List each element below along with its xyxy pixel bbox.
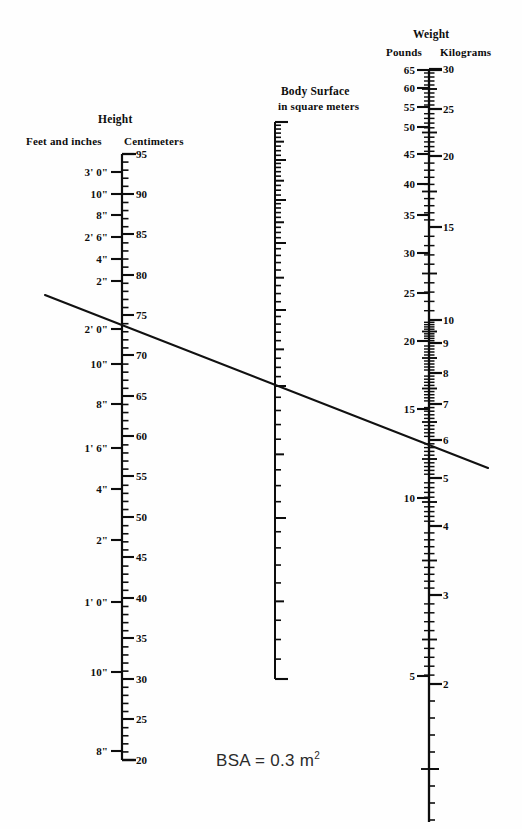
weight-scale-title: Weight: [413, 29, 449, 41]
height-cm-labels-item: 45: [136, 552, 147, 563]
height-ft-labels-item: 4": [96, 254, 108, 265]
height-cm-labels-item: 70: [136, 350, 147, 361]
height-ft-labels-item: 4": [96, 484, 108, 495]
weight-lb-labels-item: 15: [404, 404, 415, 415]
height-cm-labels-item: 55: [136, 471, 147, 482]
height-cm-labels-item: 20: [136, 755, 147, 766]
weight-lb-labels-item: 5: [409, 671, 415, 682]
height-cm-labels-item: 75: [136, 310, 147, 321]
weight-lb-labels-item: 60: [404, 83, 415, 94]
weight-kg-labels-item: 7: [443, 399, 449, 410]
height-cm-labels-item: 35: [136, 633, 147, 644]
weight-kg-labels-item: 8: [443, 368, 449, 379]
height-feet-inches-header: Feet and inches: [26, 136, 102, 147]
weight-lb-labels-item: 50: [404, 122, 415, 133]
height-ft-labels-item: 8": [96, 210, 108, 221]
bsa-result-annotation: BSA = 0.3 m2: [216, 750, 320, 771]
height-ft-labels-item: 3' 0": [85, 167, 108, 178]
height-ft-labels-item: 10": [91, 189, 108, 200]
height-cm-labels-item: 95: [136, 149, 147, 160]
weight-kg-labels-item: 30: [443, 64, 454, 75]
weight-lb-labels-item: 55: [404, 102, 415, 113]
nomogram-canvas: [0, 0, 522, 829]
height-ft-labels-item: 2' 0": [85, 324, 108, 335]
ticks-group: [111, 69, 442, 820]
weight-lb-labels-item: 30: [404, 248, 415, 259]
height-cm-labels-item: 30: [136, 674, 147, 685]
height-cm-labels-item: 85: [136, 229, 147, 240]
bsa-scale-title-line1: Body Surface: [281, 86, 350, 98]
weight-kg-labels-item: 20: [443, 151, 454, 162]
weight-kg-labels-item: 10: [443, 315, 454, 326]
weight-kg-labels-item: 6: [443, 435, 449, 446]
bsa-result-exponent: 2: [314, 750, 320, 761]
height-ft-labels-item: 2": [96, 276, 108, 287]
weight-lb-labels-item: 40: [404, 179, 415, 190]
height-ft-labels-item: 8": [96, 399, 108, 410]
weight-lb-labels-item: 45: [404, 149, 415, 160]
weight-lb-labels-item: 65: [404, 65, 415, 76]
weight-kilograms-header: Kilograms: [440, 47, 491, 58]
height-ft-labels-item: 2' 6": [85, 232, 108, 243]
bsa-result-text: BSA = 0.3 m: [216, 751, 314, 770]
weight-kg-labels-item: 5: [443, 473, 449, 484]
weight-kg-labels-item: 4: [443, 521, 449, 532]
weight-kg-labels-item: 2: [443, 679, 449, 690]
weight-kg-labels-item: 9: [443, 338, 449, 349]
bsa-scale-title-line2: in square meters: [278, 101, 359, 112]
height-cm-labels-item: 40: [136, 593, 147, 604]
bsa-reference-line[interactable]: [45, 295, 488, 468]
height-cm-labels-item: 80: [136, 270, 147, 281]
height-cm-labels-item: 25: [136, 714, 147, 725]
height-ft-labels-item: 1' 6": [85, 443, 108, 454]
bsa-nomogram-figure: Height Feet and inches Centimeters 95908…: [0, 0, 522, 829]
height-cm-labels-item: 65: [136, 391, 147, 402]
height-ft-labels-item: 2": [96, 535, 108, 546]
axes-group: [122, 70, 442, 822]
height-ft-labels-item: 10": [91, 359, 108, 370]
weight-lb-labels-item: 10: [404, 493, 415, 504]
height-centimeters-header: Centimeters: [124, 136, 184, 147]
weight-kg-labels-item: 3: [443, 590, 449, 601]
height-ft-labels-item: 10": [91, 667, 108, 678]
weight-kg-labels-item: 25: [443, 104, 454, 115]
weight-pounds-header: Pounds: [386, 47, 422, 58]
weight-lb-labels-item: 35: [404, 210, 415, 221]
weight-lb-labels-item: 25: [404, 288, 415, 299]
height-cm-labels-item: 90: [136, 189, 147, 200]
height-ft-labels-item: 1' 0": [85, 597, 108, 608]
weight-kg-labels-item: 15: [443, 222, 454, 233]
height-cm-labels-item: 60: [136, 431, 147, 442]
height-scale-title: Height: [98, 114, 132, 126]
height-ft-labels-item: 8": [96, 746, 108, 757]
height-cm-labels-item: 50: [136, 512, 147, 523]
weight-lb-labels-item: 20: [404, 336, 415, 347]
